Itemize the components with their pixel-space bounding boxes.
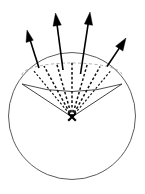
outgoing-arrow-center-left xyxy=(53,13,63,70)
outgoing-arrow-left xyxy=(26,30,39,68)
inner-ray-1 xyxy=(34,71,73,118)
outgoing-arrow-right xyxy=(107,38,126,67)
inner-ray-3 xyxy=(57,63,73,117)
outgoing-arrow-center-right-head xyxy=(84,12,92,25)
outgoing-arrow-left-head xyxy=(26,30,33,43)
figure-root xyxy=(0,0,145,194)
outgoing-arrow-center-left-head xyxy=(53,13,61,26)
outgoing-arrow-right-shaft xyxy=(107,48,119,66)
inner-ray-5 xyxy=(72,64,88,118)
scattering-cone-diagram xyxy=(0,0,145,194)
inner-ray-7 xyxy=(72,71,111,117)
outgoing-arrow-left-shaft xyxy=(30,39,39,68)
outgoing-arrow-right-head xyxy=(116,38,126,51)
